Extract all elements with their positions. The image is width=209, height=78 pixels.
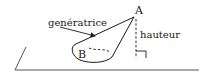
generatrix-arrow (60, 27, 95, 36)
plane-left-edge (15, 47, 26, 70)
cone-side-line (112, 17, 134, 57)
generatrix-label: genératrice (48, 17, 107, 28)
cone-base-hidden-arc (89, 48, 110, 52)
oblique-cone-diagram: A B genératrice hauteur (0, 0, 209, 78)
height-label: hauteur (140, 29, 180, 40)
right-angle-mark (136, 51, 146, 58)
apex-label: A (134, 4, 144, 17)
base-point-label: B (78, 48, 86, 61)
